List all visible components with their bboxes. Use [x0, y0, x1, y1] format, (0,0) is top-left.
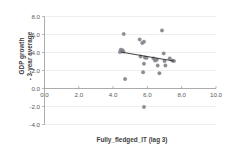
x-tick-label: 10.0 [210, 91, 223, 98]
y-tick-label: -2.0 [29, 103, 40, 110]
data-point [142, 40, 145, 43]
gridlines [45, 17, 217, 125]
y-tick-label: -4.0 [29, 121, 40, 128]
data-point [162, 52, 165, 55]
data-point [142, 62, 145, 65]
x-tick-label: 6.0 [143, 91, 152, 98]
data-point [142, 105, 145, 108]
x-axis-title: Fully_fledged_IT (lag 3) [96, 136, 167, 144]
x-tick-label: 0.0 [40, 91, 49, 98]
data-point [138, 38, 141, 41]
trend-line [121, 52, 174, 61]
data-point [160, 29, 163, 32]
data-point [164, 64, 167, 67]
data-point [122, 32, 125, 35]
x-tick-labels: 0.02.04.06.08.010.0 [40, 91, 222, 98]
y-axis-title-line1: GDP growth [18, 38, 26, 75]
chart-canvas: 0.02.04.06.08.010.0 8.06.04.02.00.0-2.0-… [0, 0, 228, 153]
x-tick-label: 4.0 [109, 91, 118, 98]
x-tick-label: 8.0 [177, 91, 186, 98]
scatter-chart: 0.02.04.06.08.010.0 8.06.04.02.00.0-2.0-… [0, 0, 228, 153]
x-tick-label: 2.0 [74, 91, 83, 98]
y-tick-label: 8.0 [31, 13, 40, 20]
y-axis-title: GDP growth - 3-year average [18, 31, 34, 80]
data-point [141, 71, 144, 74]
trend-line-segment [121, 52, 174, 61]
data-point [158, 72, 161, 75]
data-point [123, 77, 126, 80]
y-tick-label: 0.0 [31, 85, 40, 92]
y-axis-title-line2: - 3-year average [26, 31, 34, 80]
data-point [156, 64, 159, 67]
